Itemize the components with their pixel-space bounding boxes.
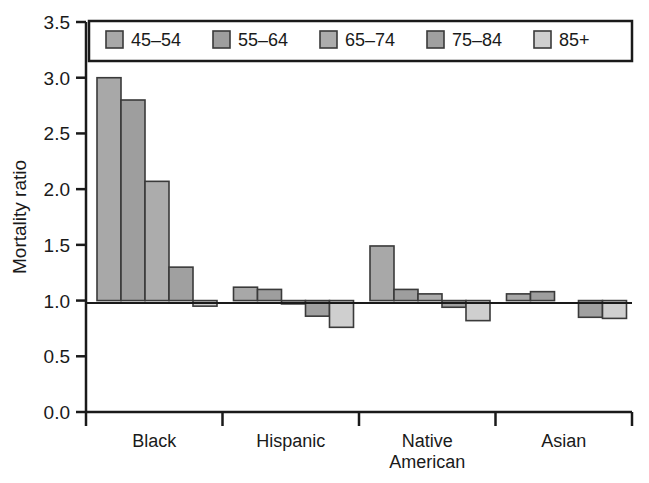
legend-label: 65–74 <box>345 30 395 50</box>
legend-swatch <box>213 31 230 48</box>
legend-swatch <box>534 31 551 48</box>
x-category-label: Hispanic <box>256 431 325 451</box>
legend-swatch <box>320 31 337 48</box>
y-tick-label: 2.0 <box>44 179 70 200</box>
y-tick-label: 3.0 <box>44 68 70 89</box>
bar <box>394 289 418 300</box>
x-tick-group <box>86 412 632 426</box>
y-tick-group: 0.00.51.01.52.02.53.03.5 <box>44 12 86 423</box>
x-category-label: American <box>389 452 465 472</box>
legend-label: 85+ <box>559 30 590 50</box>
bar <box>258 289 282 300</box>
chart-container: 0.00.51.01.52.02.53.03.5 Mortality ratio… <box>0 0 649 483</box>
legend-swatch <box>106 31 123 48</box>
y-tick-label: 0.5 <box>44 346 70 367</box>
legend-label: 55–64 <box>238 30 288 50</box>
legend-label: 75–84 <box>452 30 502 50</box>
y-tick-label: 3.5 <box>44 12 70 33</box>
bar <box>370 246 394 301</box>
y-tick-label: 1.0 <box>44 291 70 312</box>
y-tick-label: 2.5 <box>44 123 70 144</box>
x-category-label: Native <box>402 431 453 451</box>
bar <box>169 267 193 300</box>
bar <box>507 294 531 301</box>
bar <box>418 294 442 301</box>
x-category-label: Black <box>132 431 177 451</box>
legend-swatch <box>427 31 444 48</box>
y-axis-group: 0.00.51.01.52.02.53.03.5 Mortality ratio <box>9 12 86 423</box>
chart-legend: 45–5455–6465–7475–8485+ <box>89 21 632 61</box>
y-tick-label: 0.0 <box>44 402 70 423</box>
y-tick-label: 1.5 <box>44 235 70 256</box>
x-axis-group: BlackHispanicNativeAmericanAsian <box>86 412 632 472</box>
x-category-label: Asian <box>541 431 586 451</box>
category-label-group: BlackHispanicNativeAmericanAsian <box>132 431 586 472</box>
bar <box>330 301 354 328</box>
y-axis-title: Mortality ratio <box>9 160 30 274</box>
legend-label: 45–54 <box>131 30 181 50</box>
bars-group <box>97 78 627 328</box>
bar <box>121 100 145 301</box>
bar <box>531 292 555 301</box>
bar <box>145 181 169 300</box>
bar <box>97 78 121 301</box>
bar <box>234 287 258 300</box>
mortality-ratio-bar-chart: 0.00.51.01.52.02.53.03.5 Mortality ratio… <box>0 0 649 483</box>
